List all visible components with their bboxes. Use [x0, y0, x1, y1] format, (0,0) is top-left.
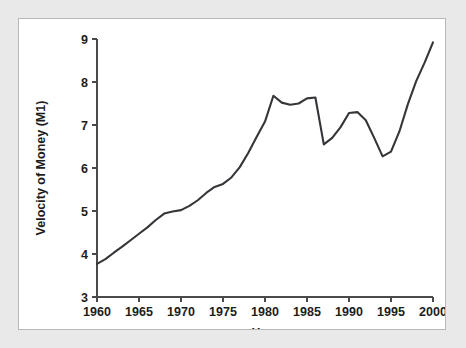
y-tick-label: 6: [81, 162, 88, 176]
y-tick-label: 5: [81, 205, 88, 219]
x-tick-label: 2000: [419, 305, 445, 319]
x-tick-label: 1985: [293, 305, 321, 319]
x-axis-ticks: 196019651970197519801985199019952000: [83, 297, 445, 319]
chart-plot-area: 3456789 19601965197019751980198519901995…: [19, 19, 445, 329]
y-tick-label: 3: [81, 291, 88, 305]
series-line-velocity: [97, 42, 433, 263]
y-tick-label: 7: [81, 119, 88, 133]
y-tick-label: 4: [81, 248, 88, 262]
velocity-of-money-line-chart: 3456789 19601965197019751980198519901995…: [19, 19, 445, 329]
chart-axes: [97, 39, 433, 297]
x-tick-label: 1970: [167, 305, 195, 319]
x-tick-label: 1980: [251, 305, 279, 319]
x-axis-title: Year: [252, 326, 279, 329]
x-tick-label: 1995: [377, 305, 405, 319]
y-tick-label: 9: [81, 33, 88, 47]
y-tick-label: 8: [81, 76, 88, 90]
x-tick-label: 1975: [209, 305, 237, 319]
x-tick-label: 1960: [83, 305, 111, 319]
y-axis-ticks: 3456789: [81, 33, 97, 305]
x-tick-label: 1965: [125, 305, 153, 319]
data-series-group: [97, 42, 433, 263]
x-tick-label: 1990: [335, 305, 363, 319]
figure-frame: 3456789 19601965197019751980198519901995…: [18, 18, 446, 330]
y-axis-title: Velocity of Money (M1): [34, 101, 48, 236]
